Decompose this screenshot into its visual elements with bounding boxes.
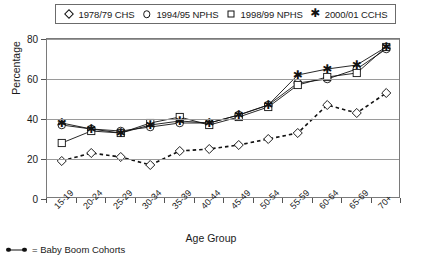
data-point (146, 160, 155, 169)
data-point (57, 156, 66, 165)
data-point: ✱ (86, 122, 96, 136)
data-point (116, 152, 125, 161)
y-tick-label: 80 (27, 34, 38, 45)
data-point (264, 134, 273, 143)
data-point (352, 108, 361, 117)
y-tick-label: 60 (27, 74, 38, 85)
data-point: ✱ (263, 98, 273, 112)
data-point: ✱ (381, 40, 391, 54)
data-point (205, 144, 214, 153)
legend-label-3: 2000/01 CCHS (325, 9, 388, 20)
gridline (47, 39, 399, 40)
footnote-text: = Baby Boom Cohorts (32, 244, 125, 255)
series-0 (57, 88, 391, 169)
data-point: ✱ (234, 108, 244, 122)
legend-item-3: ✱ 2000/01 CCHS (310, 9, 388, 20)
series-line (62, 93, 387, 165)
series-line (62, 47, 387, 143)
y-tick-label: 20 (27, 154, 38, 165)
gridline (47, 159, 399, 160)
data-point: ✱ (352, 58, 362, 72)
data-point: ✱ (175, 114, 185, 128)
legend-marker-circle-icon (141, 9, 152, 20)
y-axis-title: Percentage (10, 8, 22, 128)
legend-item-2: 1998/99 NPHS (226, 9, 303, 20)
data-point: ✱ (293, 68, 303, 82)
data-point (87, 148, 96, 157)
legend-item-0: 1978/79 CHS (63, 9, 134, 20)
data-point: ✱ (145, 118, 155, 132)
legend-marker-diamond-icon (63, 9, 74, 20)
y-tick-label: 40 (27, 114, 38, 125)
chart-figure: 1978/79 CHS 1994/95 NPHS 1998/99 NPHS ✱ … (0, 0, 422, 265)
data-point (58, 139, 65, 146)
gridline (47, 79, 399, 80)
legend-marker-square-icon (226, 9, 237, 20)
legend-marker-asterisk-icon: ✱ (310, 9, 321, 20)
series-line (62, 47, 387, 133)
plot-area: ✱✱✱✱✱✱✱✱✱✱✱✱ (46, 38, 400, 198)
data-point: ✱ (322, 62, 332, 76)
series-3: ✱✱✱✱✱✱✱✱✱✱✱✱ (57, 40, 392, 140)
gridline (47, 119, 399, 120)
baby-boom-line-icon (6, 245, 28, 254)
x-axis-title: Age Group (0, 232, 422, 244)
chart-legend: 1978/79 CHS 1994/95 NPHS 1998/99 NPHS ✱ … (55, 4, 396, 24)
data-point: ✱ (116, 126, 126, 140)
legend-label-0: 1978/79 CHS (78, 9, 134, 20)
data-point (323, 100, 332, 109)
data-point (382, 88, 391, 97)
legend-label-2: 1998/99 NPHS (241, 9, 303, 20)
data-point (294, 81, 301, 88)
legend-label-1: 1994/95 NPHS (156, 9, 218, 20)
data-point (234, 140, 243, 149)
y-axis: 020406080 (0, 38, 46, 199)
data-point (175, 146, 184, 155)
legend-item-1: 1994/95 NPHS (141, 9, 218, 20)
chart-footnote: = Baby Boom Cohorts (6, 244, 125, 255)
